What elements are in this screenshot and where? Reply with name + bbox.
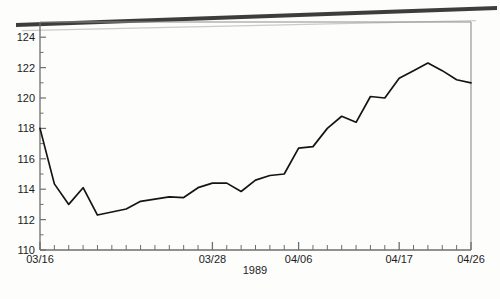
scan-edge-line <box>16 6 497 27</box>
y-tick-label: 122 <box>17 62 35 74</box>
plot-frame <box>40 22 471 250</box>
scan-artifact-group <box>16 6 497 31</box>
x-tick-label: 04/26 <box>457 253 485 265</box>
x-axis <box>40 242 471 250</box>
y-tick-label: 116 <box>17 153 35 165</box>
data-series-line <box>40 63 471 215</box>
y-axis: 110112114116118120122124 <box>17 31 46 256</box>
x-tick-label: 03/28 <box>199 253 227 265</box>
x-tick-label: 03/16 <box>26 253 54 265</box>
y-tick-label: 112 <box>17 214 35 226</box>
line-chart: 110112114116118120122124 03/1603/2804/06… <box>0 0 500 299</box>
y-tick-label: 114 <box>17 183 35 195</box>
chart-page: 110112114116118120122124 03/1603/2804/06… <box>0 0 500 299</box>
y-tick-label: 124 <box>17 31 35 43</box>
y-tick-label: 118 <box>17 122 35 134</box>
x-tick-label: 04/17 <box>385 253 413 265</box>
x-axis-title: 1989 <box>243 264 267 276</box>
x-tick-label: 04/06 <box>285 253 313 265</box>
y-tick-label: 120 <box>17 92 35 104</box>
